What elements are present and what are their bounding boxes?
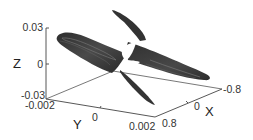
right-lobe bbox=[127, 42, 210, 80]
z-tick-label-mid: 0 bbox=[37, 58, 43, 70]
upper-spike bbox=[112, 10, 146, 41]
x-tick-mid bbox=[186, 101, 188, 103]
y-tick-label-mid: 0 bbox=[92, 111, 98, 123]
x-tick-label-right: 0.8 bbox=[162, 117, 177, 129]
center-gap-lower bbox=[124, 61, 140, 68]
y-tick-label-left: -0.002 bbox=[25, 99, 55, 111]
x-tick-label-mid: 0 bbox=[194, 100, 200, 112]
back-floor-edge-left bbox=[46, 71, 113, 99]
y-axis-label: Y bbox=[73, 117, 82, 132]
z-tick-label-top: 0.03 bbox=[23, 21, 44, 33]
y-tick-label-right: 0.002 bbox=[129, 120, 155, 132]
surface bbox=[57, 10, 210, 105]
x-axis-label: X bbox=[205, 104, 214, 119]
z-axis-label: Z bbox=[13, 56, 21, 71]
x-tick-label-far: -0.8 bbox=[223, 83, 241, 95]
surface-plot-3d: 0.03 0 -0.03 -0.002 0 0.002 0.8 0 -0.8 Z… bbox=[0, 0, 253, 140]
